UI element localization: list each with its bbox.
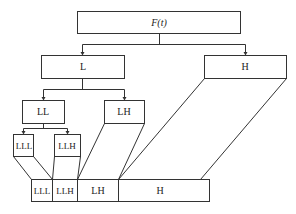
h-label: H — [241, 62, 248, 72]
lll-label: LLL — [16, 142, 33, 151]
l-label: L — [80, 62, 86, 72]
llh-label: LLH — [58, 142, 76, 151]
lh-label: LH — [117, 107, 130, 117]
root-label: F(t) — [151, 18, 167, 28]
bar-h-label: H — [156, 186, 163, 196]
bar-lh-label: LH — [91, 186, 104, 196]
bar-lll-label: LLL — [34, 187, 51, 196]
bar-llh-label: LLH — [56, 187, 74, 196]
ll-label: LL — [37, 107, 49, 117]
